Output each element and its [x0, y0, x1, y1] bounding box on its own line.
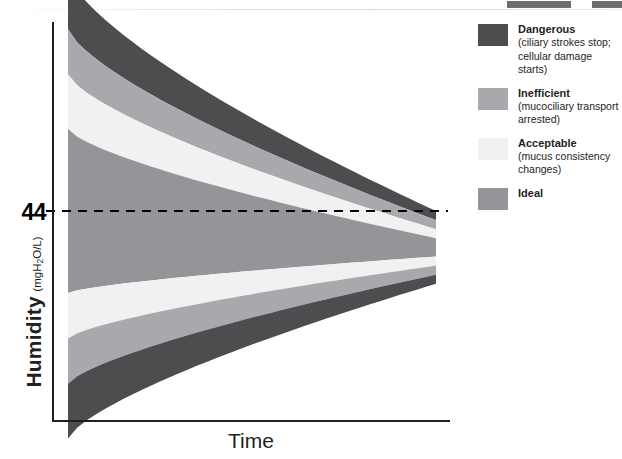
legend-item-ideal[interactable]: Ideal	[478, 186, 622, 216]
legend-swatch-dangerous	[478, 24, 508, 46]
legend-label-acceptable: Acceptable	[518, 136, 622, 150]
legend-swatch-inefficient	[478, 88, 508, 110]
legend-text-acceptable: Acceptable(mucus consistency changes)	[518, 136, 622, 177]
legend-description-dangerous: (ciliary strokes stop; cellular damage s…	[518, 36, 622, 77]
legend-label-inefficient: Inefficient	[518, 86, 622, 100]
legend-item-acceptable[interactable]: Acceptable(mucus consistency changes)	[478, 136, 622, 177]
y-axis-label-text: Humidity	[22, 296, 45, 387]
band-group	[68, 0, 436, 439]
plot-area: 44 Humidity (mgH2O/L) Time	[0, 0, 470, 459]
scan-artifact-top-right	[592, 1, 622, 8]
chart-page: 44 Humidity (mgH2O/L) Time Dangerous(cil…	[0, 0, 622, 459]
legend-item-dangerous[interactable]: Dangerous(ciliary strokes stop; cellular…	[478, 22, 622, 77]
legend-label-ideal: Ideal	[518, 186, 622, 200]
funnel-band-chart	[0, 0, 470, 459]
scan-artifact-top-left	[507, 1, 571, 8]
legend-description-acceptable: (mucus consistency changes)	[518, 150, 622, 177]
legend-text-ideal: Ideal	[518, 186, 622, 200]
legend-item-inefficient[interactable]: Inefficient(mucociliary transport arrest…	[478, 86, 622, 127]
y-axis-line	[52, 22, 54, 422]
chart-legend: Dangerous(ciliary strokes stop; cellular…	[478, 22, 622, 225]
y-axis-unit-pre: (mgH	[31, 264, 43, 292]
x-axis-line	[52, 420, 450, 422]
legend-text-dangerous: Dangerous(ciliary strokes stop; cellular…	[518, 22, 622, 77]
y-axis-label: Humidity (mgH2O/L)	[22, 202, 46, 422]
y-axis-unit: (mgH2O/L)	[31, 236, 43, 291]
legend-swatch-acceptable	[478, 138, 508, 160]
legend-label-dangerous: Dangerous	[518, 22, 622, 36]
x-axis-label: Time	[52, 429, 450, 453]
legend-description-inefficient: (mucociliary transport arrested)	[518, 100, 622, 127]
legend-swatch-ideal	[478, 188, 508, 210]
legend-text-inefficient: Inefficient(mucociliary transport arrest…	[518, 86, 622, 127]
y-axis-unit-subscript: 2	[35, 259, 45, 264]
y-axis-unit-post: O/L)	[31, 236, 43, 258]
